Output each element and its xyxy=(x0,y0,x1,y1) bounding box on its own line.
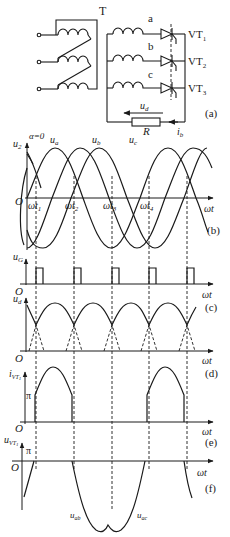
uvt1-segment-right xyxy=(184,461,192,498)
time-marker-lines xyxy=(36,176,187,510)
curve-label-uac: uac xyxy=(137,510,148,521)
curve-label-uab: uab xyxy=(70,510,81,521)
pi-label-e: π xyxy=(26,390,31,401)
panel-label-a: (a) xyxy=(205,107,218,120)
panel-b-phase-voltages: u2 α=0 O ωt (b) ua ub uc ωt1 ωt2 ωt3 ωt4 xyxy=(13,131,220,250)
thyristor-label-vt3: VT3 xyxy=(188,82,207,97)
transformer-label: T xyxy=(99,4,107,18)
time-mark-t2: ωt2 xyxy=(65,200,79,213)
pi-label-f: π xyxy=(26,445,31,456)
panel-label-c: (c) xyxy=(205,301,218,314)
curve-label-uc: uc xyxy=(129,134,138,147)
time-mark-t3: ωt3 xyxy=(103,200,117,213)
origin-label-f: O xyxy=(11,461,19,473)
thyristor-vt1 xyxy=(161,28,185,44)
axis-label-uvt1: uVT1 xyxy=(4,434,19,447)
resistor-label: R xyxy=(142,125,150,137)
x-axis-label-b: ωt xyxy=(204,203,214,214)
uvt1-segment-left xyxy=(24,461,34,497)
phase-label-c: c xyxy=(148,68,153,80)
uvt1-segment-main xyxy=(72,461,145,532)
circuit-diagram: T xyxy=(37,4,217,139)
thyristor-vt3 xyxy=(161,82,185,98)
current-label: ib xyxy=(177,126,184,139)
thyristor-label-vt2: VT2 xyxy=(188,55,207,70)
origin-label-d: O xyxy=(15,352,23,364)
origin-label-e: O xyxy=(15,422,23,434)
panel-label-d: (d) xyxy=(205,367,218,380)
x-axis-label-c: ωt xyxy=(202,289,212,300)
curve-label-ua: ua xyxy=(50,134,59,147)
gate-pulse-5 xyxy=(187,268,194,284)
ivt1-pulse-1 xyxy=(35,367,72,422)
ivt1-pulse-2 xyxy=(147,367,184,422)
panel-c-gate-pulses: uG O ωt (c) xyxy=(13,251,218,314)
x-axis-label-d: ωt xyxy=(202,355,212,366)
x-axis-label-f: ωt xyxy=(197,467,207,478)
panel-label-b: (b) xyxy=(207,224,220,237)
phase-label-a: a xyxy=(148,12,153,24)
phase-label-b: b xyxy=(148,40,154,52)
time-mark-t1: ωt1 xyxy=(28,200,41,213)
thyristor-vt2 xyxy=(161,55,185,71)
axis-label-ivt1: iVT1 xyxy=(9,368,21,381)
panel-e-thyristor-current: iVT1 π O ωt (e) xyxy=(9,367,218,449)
alpha-label: α=0 xyxy=(29,131,45,141)
gate-pulse-2 xyxy=(74,268,81,284)
gate-pulse-3 xyxy=(112,268,119,284)
gate-pulse-4 xyxy=(149,268,156,284)
primary-windings xyxy=(56,20,97,89)
gate-pulse-1 xyxy=(36,268,43,284)
axis-label-u2: u2 xyxy=(13,138,22,151)
axis-label-ug: uG xyxy=(13,251,23,264)
panel-label-f: (f) xyxy=(205,482,216,495)
panel-label-e: (e) xyxy=(205,436,218,449)
three-phase-half-wave-rectifier-figure: T xyxy=(0,0,230,537)
ud-waveform xyxy=(27,303,196,325)
load-voltage-label: ud xyxy=(140,100,149,113)
primary-terminals xyxy=(37,33,58,91)
thyristor-label-vt1: VT1 xyxy=(188,28,207,43)
curve-label-ub: ub xyxy=(92,134,101,147)
time-mark-t4: ωt4 xyxy=(140,200,154,213)
